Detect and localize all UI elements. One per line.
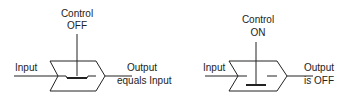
switch-drawings <box>0 0 350 99</box>
output-label-on: Output <box>304 62 334 73</box>
input-label-off: Input <box>15 62 37 73</box>
output-desc-off: equals Input <box>117 75 172 86</box>
input-label-on: Input <box>203 62 225 73</box>
output-label-off: Output <box>127 62 157 73</box>
output-desc-on: is OFF <box>304 75 334 86</box>
switch-diagram: Control OFF Input Output equals Input Co… <box>0 0 350 99</box>
switch-body <box>229 61 287 91</box>
control-label-off: Control <box>57 8 97 19</box>
control-state-off: OFF <box>57 20 97 31</box>
control-label-on: Control <box>238 14 278 25</box>
control-state-on: ON <box>238 27 278 38</box>
